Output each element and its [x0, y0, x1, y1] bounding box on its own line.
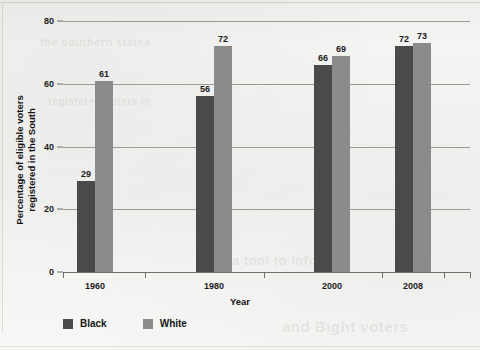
legend-swatch-white — [143, 319, 153, 329]
x-tick-mark-3 — [382, 272, 383, 278]
bar-value-white-1960: 61 — [99, 69, 109, 79]
bar-white-2008 — [413, 43, 431, 272]
y-tick-mark-60 — [57, 83, 63, 84]
y-axis-title: Percentage of eligible voters registered… — [14, 60, 38, 260]
legend-item-white[interactable]: White — [143, 318, 187, 329]
legend-label-black: Black — [80, 318, 107, 329]
y-axis-title-line-2: registered in the South — [26, 60, 38, 260]
bar-black-1980 — [196, 96, 214, 272]
bar-value-black-1980: 56 — [200, 84, 210, 94]
legend-swatch-black — [63, 319, 73, 329]
bar-white-2000 — [332, 56, 350, 272]
x-axis-line — [63, 272, 470, 273]
x-tick-label-1960: 1960 — [85, 281, 105, 291]
x-tick-mark-4 — [444, 272, 445, 278]
bar-value-white-1980: 72 — [218, 34, 228, 44]
bar-chart: 020406080 1960198020002008 2961567266697… — [0, 0, 480, 350]
bar-black-2000 — [314, 65, 332, 272]
gridline-80 — [63, 21, 470, 22]
y-axis-title-line-1: Percentage of eligible voters — [14, 60, 26, 260]
x-tick-label-2008: 2008 — [403, 281, 423, 291]
bar-black-2008 — [395, 46, 413, 272]
y-tick-mark-40 — [57, 146, 63, 147]
bar-black-1960 — [77, 181, 95, 272]
bar-value-white-2000: 69 — [336, 44, 346, 54]
y-tick-label-80: 80 — [28, 16, 54, 26]
bar-value-black-2008: 72 — [399, 34, 409, 44]
y-tick-mark-80 — [57, 21, 63, 22]
bar-white-1960 — [95, 81, 113, 272]
y-tick-mark-20 — [57, 209, 63, 210]
bar-value-white-2008: 73 — [417, 31, 427, 41]
legend-label-white: White — [160, 318, 187, 329]
legend-item-black[interactable]: Black — [63, 318, 107, 329]
y-tick-label-0: 0 — [28, 267, 54, 277]
chart-legend: BlackWhite — [63, 318, 223, 329]
x-tick-label-2000: 2000 — [322, 281, 342, 291]
x-tick-mark-5 — [470, 272, 471, 278]
x-axis-title: Year — [0, 296, 480, 307]
x-tick-mark-0 — [63, 272, 64, 278]
x-tick-label-1980: 1980 — [204, 281, 224, 291]
x-tick-mark-1 — [145, 272, 146, 278]
bar-value-black-1960: 29 — [81, 169, 91, 179]
bar-value-black-2000: 66 — [318, 53, 328, 63]
x-tick-mark-2 — [264, 272, 265, 278]
bar-white-1980 — [214, 46, 232, 272]
